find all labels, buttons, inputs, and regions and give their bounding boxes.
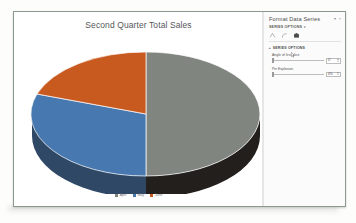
legend-item-april[interactable]: April [115, 194, 127, 198]
pie-explosion-label: Pie Explosion [272, 67, 341, 71]
legend-swatch-june [150, 194, 154, 198]
pane-subtitle[interactable]: SERIES OPTIONS ▾ [269, 25, 341, 29]
pane-header: Format Data Series ▾ × [269, 16, 341, 22]
chart-area[interactable]: Second Quarter Total Sales [14, 12, 263, 206]
pane-title: Format Data Series [269, 16, 320, 22]
pie-chart-svg[interactable] [28, 42, 263, 194]
fill-line-icon[interactable] [269, 32, 276, 39]
legend-label-april: April [120, 194, 127, 197]
legend-item-may[interactable]: May [133, 194, 144, 198]
pane-options-button[interactable]: ▾ [334, 17, 336, 21]
series-options-icon[interactable] [293, 32, 300, 39]
legend-label-may: May [138, 194, 144, 197]
chart-title: Second Quarter Total Sales [14, 20, 263, 30]
chart-legend[interactable]: April May June [14, 194, 263, 198]
legend-label-june: June [155, 194, 162, 197]
stepper-down-icon[interactable]: ▼ [337, 61, 339, 63]
excel-chart-window: Second Quarter Total Sales [13, 11, 346, 207]
series-options-heading: SERIES OPTIONS [273, 46, 305, 50]
slider-thumb[interactable] [272, 72, 274, 77]
pane-subtitle-label: SERIES OPTIONS [269, 25, 302, 29]
chevron-down-icon[interactable]: ▾ [304, 25, 306, 29]
pie-explosion-control[interactable]: 0% ▲ ▼ [272, 72, 341, 78]
angle-of-first-slice-label: Angle of first slice [272, 53, 341, 57]
pane-header-buttons: ▾ × [334, 16, 341, 21]
effects-icon[interactable] [281, 32, 288, 39]
pane-splitter[interactable] [262, 12, 264, 206]
photographed-page: Second Quarter Total Sales [0, 0, 356, 223]
series-options-section-header[interactable]: ▴ SERIES OPTIONS [269, 46, 341, 50]
field-angle-of-first-slice: Angle of first slice 0° ▲ ▼ [269, 53, 341, 64]
pie-explosion-stepper[interactable]: 0% ▲ ▼ [326, 72, 341, 78]
pie-explosion-slider[interactable] [272, 72, 324, 77]
angle-of-first-slice-value: 0° [328, 59, 331, 62]
stepper-down-icon[interactable]: ▼ [337, 74, 339, 76]
angle-of-first-slice-stepper[interactable]: 0° ▲ ▼ [326, 58, 341, 64]
legend-item-june[interactable]: June [150, 194, 162, 198]
field-pie-explosion: Pie Explosion 0% ▲ ▼ [269, 67, 341, 78]
pie-top-faces [31, 52, 260, 176]
legend-swatch-april [115, 194, 119, 198]
pane-icon-tabs[interactable] [269, 32, 341, 43]
pie-chart-3d[interactable] [28, 42, 263, 194]
format-data-series-pane[interactable]: Format Data Series ▾ × SERIES OPTIONS ▾ [263, 12, 345, 206]
chevron-up-icon[interactable]: ▴ [269, 46, 271, 50]
stepper-arrows[interactable]: ▲ ▼ [337, 72, 339, 76]
close-icon[interactable]: × [339, 17, 341, 21]
page-shadow [8, 206, 338, 214]
pie-explosion-value: 0% [328, 73, 333, 76]
stepper-arrows[interactable]: ▲ ▼ [337, 59, 339, 63]
legend-swatch-may [133, 194, 137, 198]
angle-of-first-slice-slider[interactable] [272, 58, 324, 63]
slider-thumb[interactable] [272, 58, 274, 63]
angle-of-first-slice-control[interactable]: 0° ▲ ▼ [272, 58, 341, 64]
mouse-cursor-icon [291, 44, 295, 50]
